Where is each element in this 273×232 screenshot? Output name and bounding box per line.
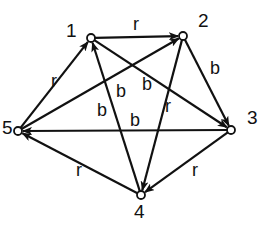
directed-graph-diagram: rbrrrbbbrb 12345 [0, 0, 273, 232]
node-2 [179, 32, 187, 40]
node-label-5: 5 [2, 117, 13, 138]
edge-label-3-5: b [130, 110, 140, 130]
node-5 [14, 127, 22, 135]
edge-label-2-4: r [165, 96, 171, 116]
node-1 [87, 34, 95, 42]
node-label-4: 4 [134, 201, 145, 222]
edge-label-3-4: r [192, 160, 198, 180]
edge-label-5-2: b [116, 81, 126, 101]
edge-label-4-5: r [76, 160, 82, 180]
edge-1-to-2 [95, 36, 178, 38]
edge-label-2-3: b [210, 58, 220, 78]
edge-label-1-2: r [133, 14, 139, 34]
edge-3-to-4 [145, 132, 228, 192]
edge-label-5-1: r [51, 71, 57, 91]
edge-2-to-4 [142, 40, 182, 190]
node-label-1: 1 [66, 20, 77, 41]
node-4 [137, 191, 145, 199]
edge-label-4-1: b [97, 100, 107, 120]
node-label-3: 3 [247, 107, 258, 128]
edge-2-to-3 [185, 40, 229, 126]
edge-label-1-3: b [142, 74, 152, 94]
nodes-layer [14, 32, 235, 199]
edge-3-to-5 [23, 130, 227, 131]
node-label-2: 2 [198, 10, 209, 31]
node-3 [227, 126, 235, 134]
